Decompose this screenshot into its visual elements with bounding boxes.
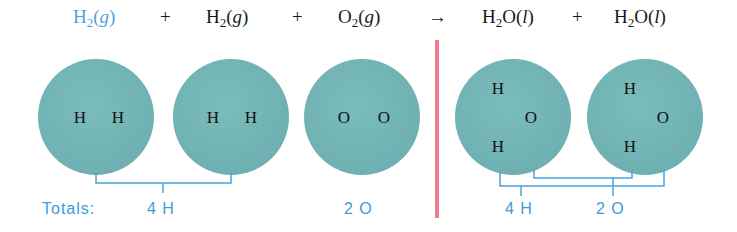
tally-brackets (0, 0, 737, 232)
product-total-h: 4 H (505, 200, 533, 218)
product-total-o: 2 O (596, 200, 625, 218)
reactant-total-o: 2 O (344, 200, 373, 218)
totals-label: Totals: (42, 200, 95, 218)
reactant-total-h: 4 H (147, 200, 175, 218)
